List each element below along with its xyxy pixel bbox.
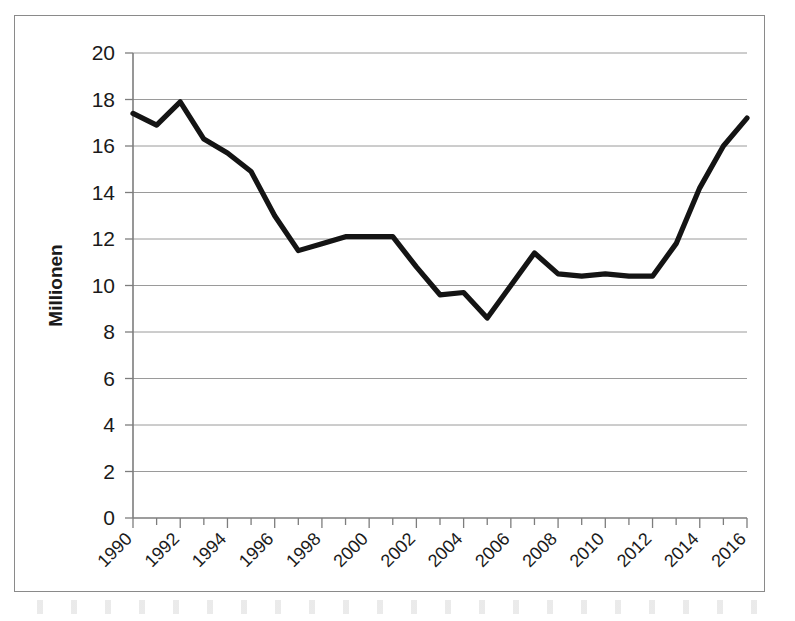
x-tick-label: 2004 xyxy=(424,529,466,571)
x-tick-label: 2008 xyxy=(518,529,560,571)
y-tick-label: 14 xyxy=(92,181,116,204)
x-tick-label: 2000 xyxy=(330,529,372,571)
y-tick-label: 4 xyxy=(103,413,115,436)
x-tick-label: 1998 xyxy=(282,529,324,571)
x-tick-label: 1992 xyxy=(141,529,183,571)
y-tick-label: 10 xyxy=(92,274,115,297)
y-tick-label: 12 xyxy=(92,227,115,250)
y-tick-label: 8 xyxy=(103,320,115,343)
y-axis-tick-labels: 02468101214161820 xyxy=(92,41,116,529)
x-axis-tick-labels: 1990199219941996199820002002200420062008… xyxy=(93,529,749,571)
x-axis-tickmarks xyxy=(133,518,747,528)
gridlines xyxy=(125,53,747,518)
x-tick-label: 2006 xyxy=(471,529,513,571)
x-tick-label: 1994 xyxy=(188,529,230,571)
y-axis-title: Millionen xyxy=(45,244,66,326)
x-tick-label: 1996 xyxy=(235,529,277,571)
x-tick-label: 2016 xyxy=(707,529,749,571)
scan-bleedthrough-strip xyxy=(28,600,763,614)
x-tick-label: 2010 xyxy=(566,529,608,571)
y-tick-label: 0 xyxy=(103,506,115,529)
y-tick-label: 6 xyxy=(103,367,115,390)
x-tick-label: 2014 xyxy=(660,529,702,571)
x-tick-label: 2012 xyxy=(613,529,655,571)
x-tick-label: 1990 xyxy=(93,529,135,571)
y-tick-label: 20 xyxy=(92,41,115,64)
y-tick-label: 18 xyxy=(92,88,115,111)
y-tick-label: 16 xyxy=(92,134,115,157)
figure-root: 02468101214161820 1990199219941996199820… xyxy=(0,0,795,621)
y-tick-label: 2 xyxy=(103,460,115,483)
line-chart[interactable]: 02468101214161820 1990199219941996199820… xyxy=(0,0,795,621)
x-tick-label: 2002 xyxy=(377,529,419,571)
